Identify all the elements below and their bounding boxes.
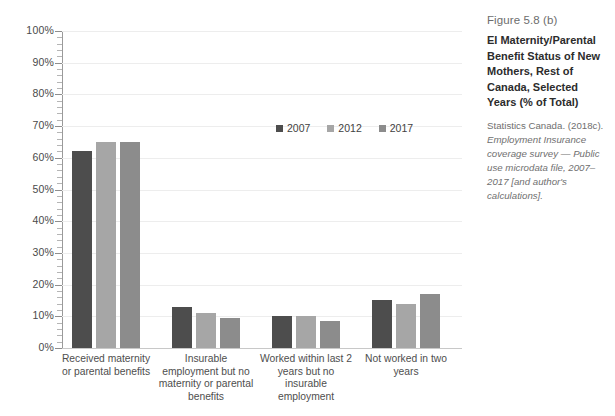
legend-swatch-icon	[276, 125, 283, 132]
y-axis-tick-label: 80%	[6, 88, 54, 99]
y-axis-minor-tick	[57, 88, 62, 89]
bar-2012-group-1	[96, 142, 116, 348]
y-axis-tick	[55, 190, 62, 191]
legend-item-2012: 2012	[327, 122, 361, 134]
bar-2007-group-1	[72, 151, 92, 348]
chart-legend: 200720122017	[276, 122, 413, 134]
y-axis-minor-tick	[57, 247, 62, 248]
bar-2017-group-3	[320, 321, 340, 348]
source-citation: Employment Insurance coverage survey — P…	[487, 134, 600, 201]
y-axis-minor-tick	[57, 202, 62, 203]
x-axis-group-label: Worked within last 2years but noinsurabl…	[251, 353, 361, 403]
y-axis-tick-label: 20%	[6, 279, 54, 290]
gridline	[62, 63, 462, 64]
source-prefix: Statistics Canada. (2018c).	[487, 120, 603, 131]
y-axis-minor-tick	[57, 164, 62, 165]
y-axis-minor-tick	[57, 101, 62, 102]
y-axis-tick-label: 100%	[6, 25, 54, 36]
x-axis-group-label: Insurableemployment but nomaternity or p…	[147, 353, 265, 403]
y-axis-minor-tick	[57, 151, 62, 152]
y-axis-tick-label: 70%	[6, 120, 54, 131]
legend-label: 2017	[390, 122, 413, 134]
y-axis-minor-tick	[57, 272, 62, 273]
y-axis-tick	[55, 94, 62, 95]
gridline	[62, 94, 462, 95]
y-axis-minor-tick	[57, 234, 62, 235]
x-axis-label-line: employment	[251, 391, 361, 404]
bar-2017-group-1	[120, 142, 140, 348]
legend-item-2017: 2017	[379, 122, 413, 134]
legend-label: 2007	[287, 122, 310, 134]
y-axis-minor-tick	[57, 170, 62, 171]
y-axis-minor-tick	[57, 177, 62, 178]
y-axis-tick	[55, 221, 62, 222]
y-axis-minor-tick	[57, 228, 62, 229]
x-axis-label-line: Insurable	[147, 353, 265, 366]
x-axis-group-label: Not worked in twoyears	[355, 353, 457, 378]
gridline	[62, 348, 462, 349]
y-axis-minor-tick	[57, 342, 62, 343]
x-axis-label-line: maternity or parental	[147, 378, 265, 391]
y-axis-tick	[55, 158, 62, 159]
y-axis-tick	[55, 31, 62, 32]
bar-2017-group-4	[420, 294, 440, 348]
figure-number: Figure 5.8 (b)	[487, 14, 609, 26]
y-axis-minor-tick	[57, 304, 62, 305]
y-axis-minor-tick	[57, 50, 62, 51]
legend-swatch-icon	[379, 125, 386, 132]
y-axis-minor-tick	[57, 183, 62, 184]
y-axis-tick	[55, 253, 62, 254]
y-axis-minor-tick	[57, 139, 62, 140]
bar-2007-group-2	[172, 307, 192, 348]
gridline	[62, 31, 462, 32]
bar-2012-group-3	[296, 316, 316, 348]
bar-2012-group-4	[396, 304, 416, 348]
x-axis-label-line: employment but no	[147, 366, 265, 379]
y-axis-tick	[55, 316, 62, 317]
legend-swatch-icon	[327, 125, 334, 132]
y-axis-minor-tick	[57, 297, 62, 298]
y-axis-tick	[55, 126, 62, 127]
y-axis-minor-tick	[57, 259, 62, 260]
y-axis-minor-tick	[57, 209, 62, 210]
y-axis-labels: 100%90%80%70%60%50%40%30%20%10%0%	[0, 0, 54, 416]
x-axis-label-line: Worked within last 2	[251, 353, 361, 366]
y-axis-minor-tick	[57, 69, 62, 70]
y-axis-minor-tick	[57, 196, 62, 197]
x-axis-label-line: Not worked in two	[355, 353, 457, 366]
figure-container: 100%90%80%70%60%50%40%30%20%10%0% 200720…	[0, 0, 615, 416]
y-axis-minor-tick	[57, 215, 62, 216]
y-axis-minor-tick	[57, 329, 62, 330]
x-axis-label-line: benefits	[147, 391, 265, 404]
figure-source: Statistics Canada. (2018c). Employment I…	[487, 119, 609, 203]
bar-2017-group-2	[220, 318, 240, 348]
y-axis-minor-tick	[57, 44, 62, 45]
y-axis-tick-label: 60%	[6, 152, 54, 163]
y-axis-tick-label: 40%	[6, 215, 54, 226]
bar-chart: 100%90%80%70%60%50%40%30%20%10%0% 200720…	[0, 0, 478, 416]
figure-title: EI Maternity/Parental Benefit Status of …	[487, 33, 609, 111]
y-axis-minor-tick	[57, 120, 62, 121]
y-axis-minor-tick	[57, 240, 62, 241]
y-axis-tick-label: 30%	[6, 247, 54, 258]
bar-2007-group-3	[272, 316, 292, 348]
figure-caption-panel: Figure 5.8 (b) EI Maternity/Parental Ben…	[487, 0, 615, 416]
bar-2012-group-2	[196, 313, 216, 348]
y-axis-minor-tick	[57, 291, 62, 292]
y-axis-minor-tick	[57, 323, 62, 324]
y-axis-minor-tick	[57, 335, 62, 336]
y-axis-tick-label: 50%	[6, 184, 54, 195]
x-axis-label-line: insurable	[251, 378, 361, 391]
bar-2007-group-4	[372, 300, 392, 348]
y-axis-minor-tick	[57, 82, 62, 83]
y-axis-minor-tick	[57, 75, 62, 76]
y-axis-minor-tick	[57, 107, 62, 108]
plot-area	[62, 31, 462, 348]
y-axis-tick-label: 10%	[6, 310, 54, 321]
x-axis-label-line: years but no	[251, 366, 361, 379]
legend-item-2007: 2007	[276, 122, 310, 134]
y-axis-minor-tick	[57, 310, 62, 311]
y-axis-tick	[55, 63, 62, 64]
y-axis-minor-tick	[57, 145, 62, 146]
y-axis-tick-label: 90%	[6, 57, 54, 68]
